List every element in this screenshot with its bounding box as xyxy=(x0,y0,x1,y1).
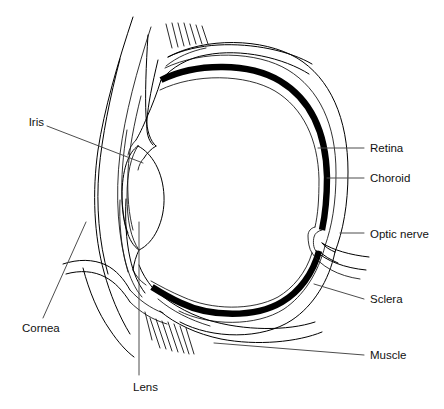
label-choroid: Choroid xyxy=(370,172,410,184)
sclera-inner-line xyxy=(165,55,336,322)
label-lens: Lens xyxy=(133,381,158,393)
label-cornea: Cornea xyxy=(22,322,60,334)
leader-iris xyxy=(47,126,143,163)
ciliary-body-lower xyxy=(133,250,152,287)
leader-muscle xyxy=(214,343,364,355)
cornea-lower-folds xyxy=(63,260,167,357)
cornea xyxy=(95,17,133,334)
label-iris: Iris xyxy=(29,116,45,128)
label-muscle: Muscle xyxy=(370,349,406,361)
optic-nerve-head xyxy=(308,227,335,253)
retina-line xyxy=(151,78,319,307)
eye-anatomy-diagram: Iris Cornea Lens Retina Choroid Optic ne… xyxy=(0,0,444,409)
leader-sclera xyxy=(314,284,364,299)
label-sclera: Sclera xyxy=(370,293,403,305)
label-optic-nerve: Optic nerve xyxy=(370,228,429,240)
leader-cornea xyxy=(43,222,86,318)
sclera-outline xyxy=(168,42,348,334)
label-retina: Retina xyxy=(370,142,404,154)
